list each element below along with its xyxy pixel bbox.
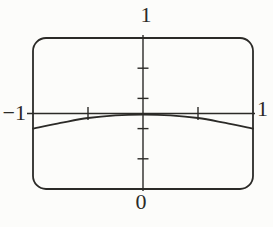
x-max-label: 1 — [257, 98, 273, 120]
x-min-label: −1 — [0, 102, 26, 124]
x-zero-label: 0 — [132, 191, 150, 213]
calculator-screen-figure: 1 0 −1 1 — [0, 0, 273, 227]
y-max-label: 1 — [137, 4, 155, 26]
